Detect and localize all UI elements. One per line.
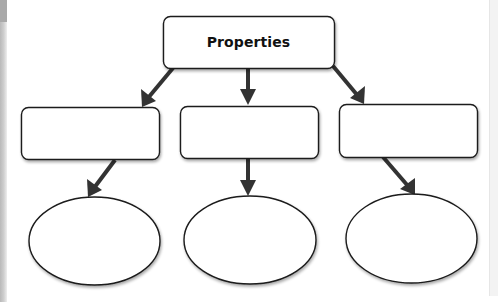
level1-box-left xyxy=(22,108,160,160)
level2-ellipse-left xyxy=(29,197,160,285)
level1-box-right xyxy=(340,105,478,158)
root-node-label: Properties xyxy=(163,16,334,68)
arrow-root-to-right-box xyxy=(333,66,365,104)
level2-ellipse-right xyxy=(346,194,477,283)
arrow-middle-box-to-middle-ellipse xyxy=(240,159,256,196)
arrow-root-to-middle-box xyxy=(240,68,256,105)
arrow-left-box-to-left-ellipse xyxy=(87,160,115,197)
arrow-root-to-left-box xyxy=(141,68,173,107)
arrow-right-box-to-right-ellipse xyxy=(383,157,415,195)
level2-ellipse-middle xyxy=(184,196,316,284)
level1-box-middle xyxy=(181,107,319,159)
